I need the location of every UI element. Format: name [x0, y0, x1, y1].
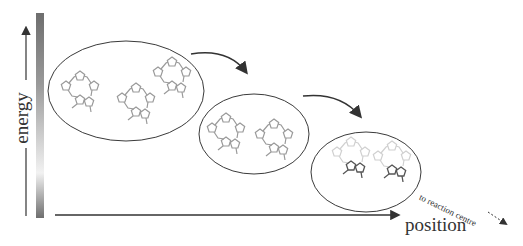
molecule [255, 119, 292, 160]
transition-arrow-2 [303, 95, 360, 116]
energy-axis-label: energy [12, 88, 32, 148]
ensemble-ellipse-low [311, 132, 421, 212]
exit-arrow [488, 212, 506, 224]
energy-funnel-diagram: energy position to reaction centre [0, 0, 523, 246]
molecule [61, 71, 98, 112]
molecule [332, 137, 369, 178]
molecule [207, 113, 244, 154]
ensemble-ellipse-high [48, 41, 204, 141]
energy-gradient-bar [36, 13, 44, 218]
transition-arrow-1 [191, 53, 246, 72]
molecule [153, 57, 190, 98]
molecule [373, 141, 410, 182]
molecule [117, 83, 154, 124]
